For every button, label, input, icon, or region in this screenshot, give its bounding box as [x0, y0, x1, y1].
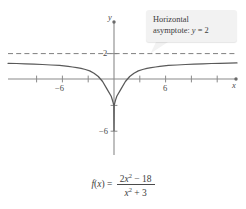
y-axis-arrow-icon: [112, 20, 115, 23]
formula-equals: =: [107, 179, 112, 189]
numerator-rest: − 18: [132, 174, 152, 184]
y-axis-label: y: [108, 12, 112, 22]
formula-denominator: x2 + 3: [117, 185, 155, 198]
function-curve: [8, 63, 237, 131]
y-tick-label-two: 2: [103, 48, 107, 58]
x-tick-label-six: 6: [163, 83, 167, 93]
denominator-rest: + 3: [132, 188, 147, 198]
x-axis-label: x: [232, 80, 236, 90]
callout-tail: [151, 42, 169, 54]
formula-fraction: 2x2 − 18 x2 + 3: [117, 172, 155, 198]
y-tick-label-negative-six: −6: [99, 126, 108, 136]
formula-paren-close: ): [101, 179, 104, 189]
callout-line2-suffix: = 2: [196, 26, 209, 35]
rational-function-figure: Horizontal asymptote: y = 2 y x −6 6 2 −…: [0, 0, 246, 209]
callout-text: Horizontal asymptote: y = 2: [153, 14, 237, 36]
asymptote-callout: Horizontal asymptote: y = 2: [146, 10, 237, 42]
function-formula: f(x) = 2x2 − 18 x2 + 3: [0, 172, 246, 198]
callout-line2-prefix: asymptote:: [153, 26, 192, 35]
x-tick-label-negative-six: −6: [55, 83, 64, 93]
callout-line1: Horizontal: [153, 15, 189, 24]
formula-numerator: 2x2 − 18: [117, 172, 155, 185]
